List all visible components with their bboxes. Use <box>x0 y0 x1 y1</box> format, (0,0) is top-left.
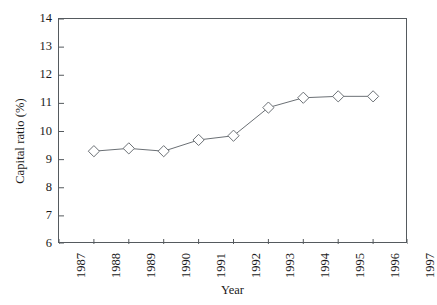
data-point-marker <box>368 91 379 102</box>
y-tick-label: 11 <box>30 96 52 108</box>
y-tick-label: 9 <box>30 153 52 165</box>
y-tick-label: 10 <box>30 125 52 137</box>
data-point-marker <box>298 92 309 103</box>
plot-area <box>58 18 407 243</box>
plot-svg <box>59 19 408 244</box>
x-axis-title: Year <box>58 283 407 298</box>
data-point-marker <box>228 130 239 141</box>
data-point-marker <box>263 102 274 113</box>
y-tick-label: 6 <box>30 237 52 249</box>
data-point-markers <box>88 91 378 157</box>
y-tick-label: 7 <box>30 209 52 221</box>
data-point-marker <box>88 146 99 157</box>
y-axis-title: Capital ratio (%) <box>9 29 31 254</box>
y-tick-label: 14 <box>30 12 52 24</box>
data-point-marker <box>333 91 344 102</box>
y-tick-label: 13 <box>30 40 52 52</box>
y-tick-marks <box>59 19 64 244</box>
y-axis-tick-labels: 67891011121314 <box>30 0 52 305</box>
data-point-marker <box>158 146 169 157</box>
data-series-line <box>94 96 373 151</box>
y-tick-label: 8 <box>30 181 52 193</box>
x-tick-label: 1997 <box>423 253 437 299</box>
y-tick-label: 12 <box>30 68 52 80</box>
data-point-marker <box>193 134 204 145</box>
data-point-marker <box>123 143 134 154</box>
